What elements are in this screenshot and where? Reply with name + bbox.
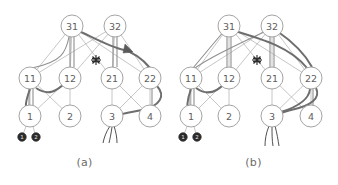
node-22-label: 22 <box>144 73 156 84</box>
terminal-node-1-label: 1 <box>20 134 24 140</box>
node-2-label: 2 <box>226 111 232 122</box>
node-1-label: 1 <box>27 111 33 122</box>
panel-a-nodes: 31 32 11 12 21 <box>18 15 161 141</box>
node-12[interactable]: 12 <box>59 67 81 89</box>
panel-a-node3-tails <box>103 126 117 143</box>
node-1[interactable]: 1 <box>180 105 202 127</box>
node-21-label: 21 <box>106 73 118 84</box>
node-31[interactable]: 31 <box>61 15 83 37</box>
panel-a: 31 32 11 12 21 <box>0 0 169 185</box>
node-12[interactable]: 12 <box>218 67 240 89</box>
node-21[interactable]: 21 <box>261 67 283 89</box>
node-4[interactable]: 4 <box>139 105 161 127</box>
node-3-label: 3 <box>109 111 115 122</box>
node-21-label: 21 <box>266 73 278 84</box>
node-31-label: 31 <box>223 21 235 32</box>
node-4-label: 4 <box>147 111 153 122</box>
terminal-node-2-label: 2 <box>195 134 199 140</box>
node-22[interactable]: 22 <box>300 67 322 89</box>
panel-a-edges-thin <box>22 26 150 137</box>
node-12-label: 12 <box>64 73 76 84</box>
node-2[interactable]: 2 <box>218 105 240 127</box>
node-11-label: 11 <box>24 73 36 84</box>
node-1-label: 1 <box>188 111 194 122</box>
node-3[interactable]: 3 <box>101 105 123 127</box>
figure-container: 31 32 11 12 21 <box>0 0 338 185</box>
node-11-label: 11 <box>185 73 197 84</box>
terminal-node-1-label: 1 <box>181 134 185 140</box>
node-3[interactable]: 3 <box>261 105 283 127</box>
node-1[interactable]: 1 <box>19 105 41 127</box>
node-32[interactable]: 32 <box>261 15 283 37</box>
panel-a-caption: (a) <box>0 156 169 169</box>
node-2-label: 2 <box>67 111 73 122</box>
node-11[interactable]: 11 <box>180 67 202 89</box>
node-3-label: 3 <box>269 111 275 122</box>
panel-b-highlight-path <box>187 31 317 122</box>
panel-b-nodes: 31 32 11 12 21 <box>179 15 322 141</box>
terminal-node-2[interactable]: 2 <box>193 133 201 141</box>
node-32-label: 32 <box>266 21 278 32</box>
node-21[interactable]: 21 <box>101 67 123 89</box>
node-22[interactable]: 22 <box>139 67 161 89</box>
panel-b-burst-icon <box>252 55 262 65</box>
node-11[interactable]: 11 <box>19 67 41 89</box>
node-32-label: 32 <box>109 21 121 32</box>
node-2[interactable]: 2 <box>59 105 81 127</box>
node-4-label: 4 <box>308 111 314 122</box>
node-22-label: 22 <box>305 73 317 84</box>
panel-b-caption: (b) <box>169 156 338 169</box>
terminal-node-2[interactable]: 2 <box>32 133 40 141</box>
node-12-label: 12 <box>223 73 235 84</box>
terminal-node-2-label: 2 <box>34 134 38 140</box>
panel-b-node3-tails <box>265 126 279 146</box>
terminal-node-1[interactable]: 1 <box>179 133 187 141</box>
panel-b: 31 32 11 12 21 <box>169 0 338 185</box>
node-31-label: 31 <box>66 21 78 32</box>
node-31[interactable]: 31 <box>218 15 240 37</box>
panel-b-graph: 31 32 11 12 21 <box>169 0 338 160</box>
node-4[interactable]: 4 <box>300 105 322 127</box>
panel-a-burst-icon <box>91 55 101 65</box>
terminal-node-1[interactable]: 1 <box>18 133 26 141</box>
node-32[interactable]: 32 <box>104 15 126 37</box>
panel-a-graph: 31 32 11 12 21 <box>0 0 169 160</box>
